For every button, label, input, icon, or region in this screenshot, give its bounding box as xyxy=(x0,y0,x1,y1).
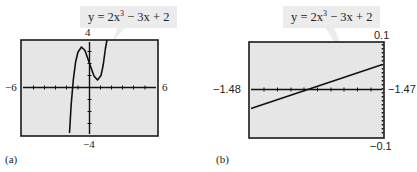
panel-label-a: (a) xyxy=(5,153,17,165)
equation-base: y = 2x xyxy=(291,10,323,24)
xmax-label-b: −1.47 xyxy=(388,83,416,95)
equation-callout-a: y = 2x3 − 3x + 2 xyxy=(80,6,177,28)
equation-base: y = 2x xyxy=(88,10,120,24)
ymax-label-b: 0.1 xyxy=(374,29,389,41)
equation-rest: − 3x + 2 xyxy=(124,10,169,24)
ymax-label-a: 4 xyxy=(85,26,91,38)
figure-b: y = 2x3 − 3x + 2 0.1 −1.48 −1.47 −0.1 (b… xyxy=(207,0,417,172)
xmin-label-a: −6 xyxy=(5,81,17,93)
ymin-label-a: −4 xyxy=(83,138,95,150)
xmin-label-b: −1.48 xyxy=(213,83,241,95)
xmax-label-a: 6 xyxy=(162,81,168,93)
ymin-label-b: −0.1 xyxy=(370,140,392,152)
equation-callout-b: y = 2x3 − 3x + 2 xyxy=(283,6,380,28)
panel-label-b: (b) xyxy=(216,153,229,165)
figure-a: y = 2x3 − 3x + 2 4 −6 6 −4 (a) xyxy=(0,0,205,172)
equation-rest: − 3x + 2 xyxy=(327,10,372,24)
